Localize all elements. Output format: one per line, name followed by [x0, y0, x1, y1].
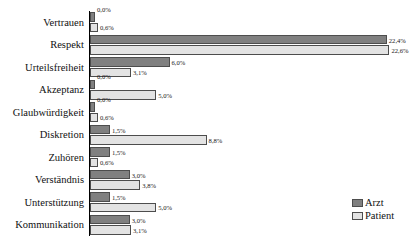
bar-value-label: 5,0%	[156, 204, 172, 211]
category-label: Respekt	[0, 39, 84, 50]
bar-patient	[90, 180, 140, 190]
category-label: Zuhören	[0, 152, 84, 163]
bar-value-label: 8,8%	[207, 136, 223, 143]
bar-value-label: 3,0%	[130, 216, 146, 223]
bar-patient	[90, 225, 131, 235]
bar-row: Glaubwürdigkeit0,0%0,6%	[0, 101, 413, 124]
legend-label-patient: Patient	[365, 209, 394, 222]
bar-patient	[90, 113, 98, 123]
bar-value-label: 3,1%	[131, 69, 147, 76]
bar-arzt	[90, 57, 170, 67]
bar-arzt	[90, 147, 110, 157]
bar-arzt	[90, 102, 95, 112]
bar-patient	[90, 45, 389, 55]
bar-value-label: 0,0%	[95, 96, 111, 103]
bar-value-label: 1,5%	[110, 126, 126, 133]
legend-item-patient: Patient	[352, 209, 394, 222]
bar-row: Respekt22,4%22,6%	[0, 34, 413, 57]
bar-value-label: 1,5%	[110, 149, 126, 156]
bar-arzt	[90, 125, 110, 135]
bar-arzt	[90, 80, 95, 90]
bar-patient	[90, 158, 98, 168]
category-label: Verständnis	[0, 174, 84, 185]
legend-swatch-patient	[352, 212, 363, 220]
bar-value-label: 3,1%	[131, 226, 147, 233]
bar-row: Vertrauen0,0%0,6%	[0, 11, 413, 34]
bar-value-label: 6,0%	[170, 59, 186, 66]
bar-value-label: 1,5%	[110, 194, 126, 201]
bar-value-label: 3,8%	[140, 181, 156, 188]
category-label: Akzeptanz	[0, 84, 84, 95]
legend-item-arzt: Arzt	[352, 196, 394, 209]
legend-swatch-arzt	[352, 199, 363, 207]
bar-value-label: 22,6%	[389, 46, 408, 53]
bar-value-label: 0,6%	[98, 159, 114, 166]
bar-value-label: 0,6%	[98, 114, 114, 121]
bar-patient	[90, 203, 156, 213]
bar-arzt	[90, 12, 95, 22]
bar-row: Urteilsfreiheit6,0%3,1%	[0, 56, 413, 79]
category-label: Unterstützung	[0, 197, 84, 208]
bar-arzt	[90, 170, 130, 180]
bar-row: Akzeptanz0,0%5,0%	[0, 79, 413, 102]
category-label: Urteilsfreiheit	[0, 62, 84, 73]
category-label: Vertrauen	[0, 17, 84, 28]
bar-arzt	[90, 35, 387, 45]
bar-value-label: 0,6%	[98, 24, 114, 31]
bar-row: Zuhören1,5%0,6%	[0, 146, 413, 169]
bar-value-label: 5,0%	[156, 91, 172, 98]
chart-legend: Arzt Patient	[352, 196, 394, 222]
category-label: Diskretion	[0, 129, 84, 140]
bar-arzt	[90, 192, 110, 202]
bar-row: Verständnis3,0%3,8%	[0, 169, 413, 192]
bar-value-label: 0,0%	[95, 73, 111, 80]
bar-value-label: 3,0%	[130, 171, 146, 178]
bar-patient	[90, 135, 207, 145]
bar-value-label: 22,4%	[387, 36, 406, 43]
bar-value-label: 0,0%	[95, 6, 111, 13]
legend-label-arzt: Arzt	[365, 196, 384, 209]
category-label: Glaubwürdigkeit	[0, 107, 84, 118]
bar-patient	[90, 23, 98, 33]
bar-arzt	[90, 215, 130, 225]
bar-chart: Vertrauen0,0%0,6%Respekt22,4%22,6%Urteil…	[0, 0, 413, 249]
category-label: Kommunikation	[0, 219, 84, 230]
bar-row: Diskretion1,5%8,8%	[0, 124, 413, 147]
